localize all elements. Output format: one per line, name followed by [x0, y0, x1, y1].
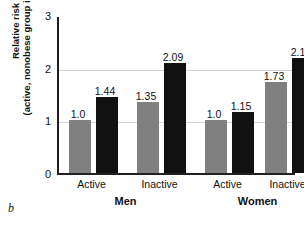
- y-axis-tick-2: 2: [35, 64, 51, 75]
- panel-letter: b: [8, 202, 14, 214]
- bar-value-men-inactive-obese: 2.09: [156, 52, 190, 63]
- bar-women-inactive-obese: [292, 58, 304, 173]
- x-axis-tick-3-inactive: Inactive: [258, 179, 305, 190]
- y-axis-tick-1: 1: [35, 116, 51, 127]
- x-axis-tick-2-active: Active: [198, 179, 258, 190]
- bar-men-active-nonobese: [69, 120, 91, 173]
- bar-men-active-obese: [96, 97, 118, 173]
- bar-women-active-nonobese: [205, 120, 227, 173]
- bar-value-women-inactive-obese: 2.18: [284, 47, 304, 58]
- figure-panel-b: Relative risk (active, nonobese group is…: [0, 0, 304, 225]
- bar-women-inactive-nonobese: [265, 82, 287, 173]
- bar-value-women-active-obese: 1.15: [224, 101, 258, 112]
- bar-men-inactive-nonobese: [137, 102, 159, 173]
- y-axis-tick-3: 3: [35, 11, 51, 22]
- x-axis-group-women: Women: [218, 196, 298, 207]
- bar-value-men-active-obese: 1.44: [88, 86, 122, 97]
- x-axis-tick-1-inactive: Inactive: [130, 179, 190, 190]
- bar-value-men-active-nonobese: 1.0: [61, 109, 95, 120]
- y-axis-title-line1: Relative risk: [10, 3, 22, 59]
- y-axis-tick-0: 0: [35, 169, 51, 180]
- y-axis-title: Relative risk (active, nonobese group is…: [6, 0, 36, 112]
- bar-women-active-obese: [232, 112, 254, 173]
- bar-value-men-inactive-nonobese: 1.35: [129, 91, 163, 102]
- bar-value-women-inactive-nonobese: 1.73: [257, 71, 291, 82]
- x-axis-tick-0-active: Active: [62, 179, 122, 190]
- x-axis-group-men: Men: [86, 196, 166, 207]
- y-axis-title-line2: (active, nonobese group is reference): [21, 0, 33, 115]
- bar-men-inactive-obese: [164, 63, 186, 173]
